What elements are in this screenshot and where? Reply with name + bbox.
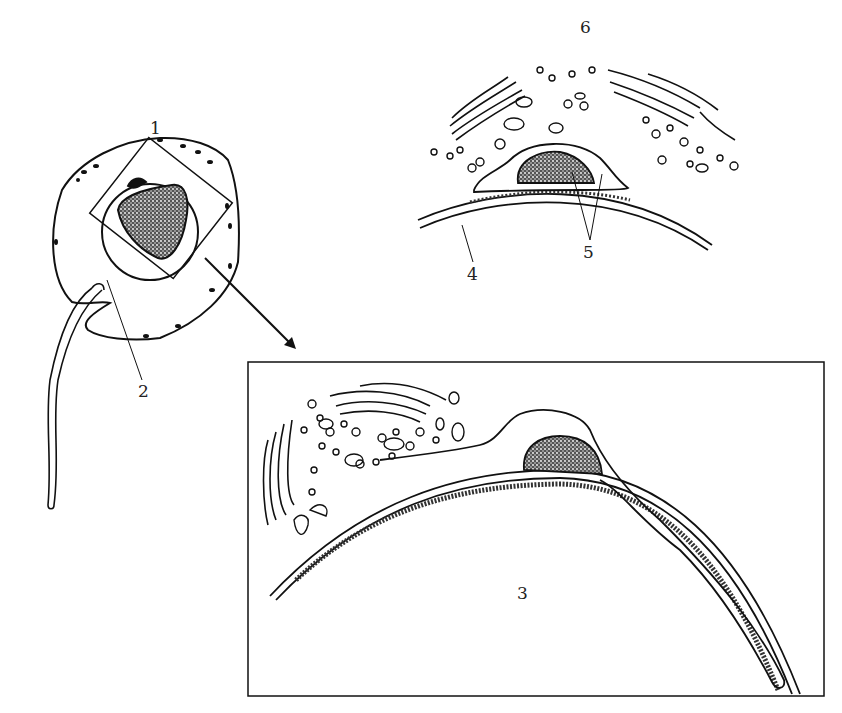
- vesicles-inset: [294, 392, 464, 534]
- inset-figure-3: [248, 362, 824, 696]
- label-3: 3: [517, 583, 528, 603]
- pointer-line-2: [107, 280, 142, 380]
- nucleolus-dark: [118, 185, 187, 259]
- label-1: 1: [150, 118, 161, 138]
- inset-box: [248, 362, 824, 696]
- chromatin-band: [296, 484, 778, 690]
- flagellum: [48, 288, 102, 509]
- nucleolus-inset: [524, 436, 602, 474]
- nuclear-envelope-outer: [418, 194, 712, 245]
- label-4: 4: [467, 264, 478, 284]
- golgi-right: [608, 70, 735, 140]
- whole-cell-figure: [48, 138, 296, 509]
- pointer-line-4: [462, 225, 473, 262]
- label-5: 5: [583, 242, 594, 262]
- flagellum-base: [92, 284, 104, 290]
- nuclear-envelope-inner: [420, 202, 708, 250]
- dark-granule: [128, 179, 146, 188]
- label-2: 2: [138, 381, 149, 401]
- label-6: 6: [580, 17, 591, 37]
- chromatin-layer: [470, 192, 630, 202]
- zoom-arrow: [205, 258, 292, 345]
- diagram-canvas: [0, 0, 842, 713]
- vesicles-6: [431, 67, 738, 172]
- section-figure-6: [418, 67, 738, 262]
- envelope-inner: [276, 478, 792, 694]
- nucleolus-body: [518, 152, 594, 183]
